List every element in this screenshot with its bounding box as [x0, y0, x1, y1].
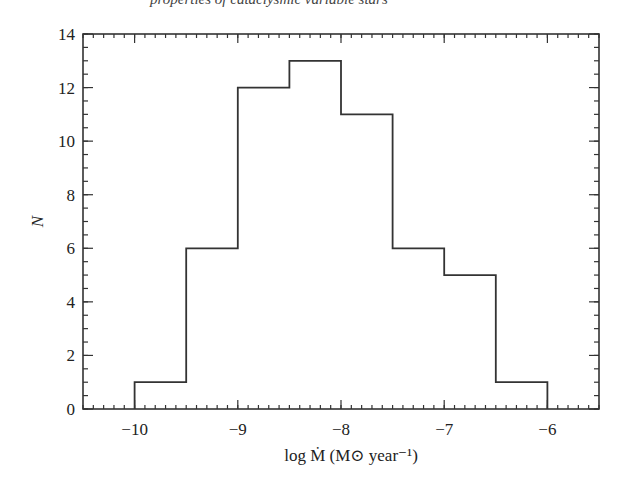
x-tick-label: −9 [229, 420, 247, 439]
y-tick-label: 14 [58, 25, 76, 44]
x-tick-label: −10 [121, 420, 148, 439]
x-tick-label: −6 [538, 420, 556, 439]
x-axis-label: log Ṁ (M⊙ year⁻¹) [284, 446, 418, 465]
x-tick-label: −8 [332, 420, 350, 439]
y-axis-label: N [28, 214, 47, 228]
y-tick-label: 0 [67, 400, 76, 419]
x-tick-labels: −10−9−8−7−6 [121, 420, 556, 439]
y-tick-label: 2 [67, 346, 76, 365]
y-tick-labels: 02468101214 [58, 25, 76, 419]
y-tick-label: 10 [58, 132, 75, 151]
x-tick-label: −7 [435, 420, 454, 439]
histogram-chart: −10−9−8−7−6 02468101214 log Ṁ (M⊙ year⁻¹… [0, 0, 622, 485]
y-tick-label: 6 [67, 239, 76, 258]
y-tick-label: 4 [67, 293, 76, 312]
y-tick-label: 12 [58, 79, 75, 98]
histogram-step-line [135, 61, 548, 409]
y-tick-label: 8 [67, 186, 76, 205]
